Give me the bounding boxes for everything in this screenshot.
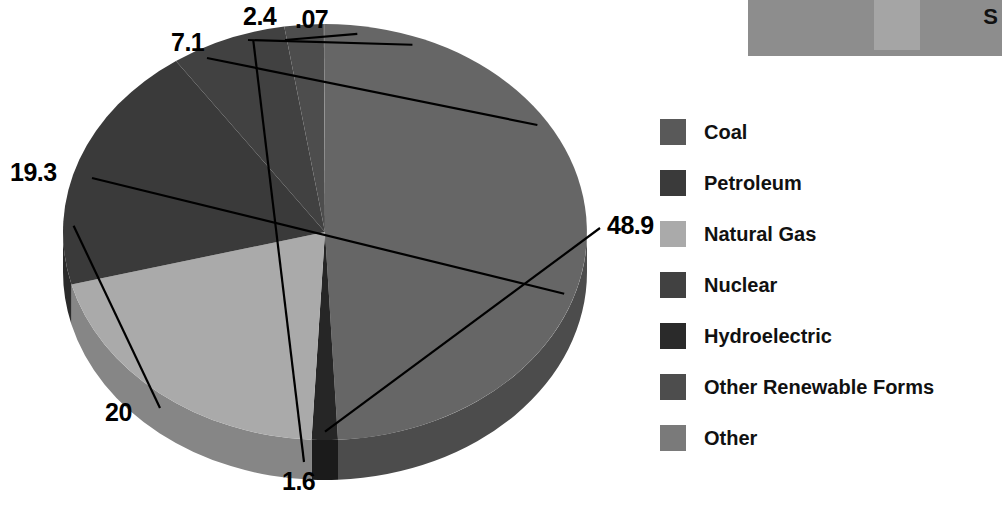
pie-value-label: 19.3: [10, 158, 57, 187]
legend-swatch-icon: [660, 323, 686, 349]
legend-item-label: Coal: [704, 122, 747, 142]
legend-item-label: Nuclear: [704, 275, 777, 295]
chart-legend: CoalPetroleumNatural GasNuclearHydroelec…: [660, 118, 1000, 451]
legend-item: Hydroelectric: [660, 322, 1000, 349]
legend-swatch-icon: [660, 374, 686, 400]
legend-item: Coal: [660, 118, 1000, 145]
chart-page: S 2.4.077.119.348.9201.6 CoalPetroleumNa…: [0, 0, 1002, 506]
pie-chart: [0, 0, 660, 506]
pie-value-label: 1.6: [282, 467, 315, 496]
legend-swatch-icon: [660, 425, 686, 451]
legend-swatch-icon: [660, 272, 686, 298]
pie-top-faces: [63, 24, 587, 440]
legend-item-label: Natural Gas: [704, 224, 816, 244]
legend-item: Nuclear: [660, 271, 1000, 298]
legend-item: Other: [660, 424, 1000, 451]
pie-slice-side: [312, 440, 339, 480]
pie-value-label: 2.4: [243, 2, 276, 31]
legend-swatch-icon: [660, 119, 686, 145]
legend-swatch-icon: [660, 221, 686, 247]
legend-item-label: Other Renewable Forms: [704, 377, 934, 397]
legend-item: Petroleum: [660, 169, 1000, 196]
legend-item: Natural Gas: [660, 220, 1000, 247]
pie-value-label: 7.1: [171, 28, 204, 57]
legend-swatch-icon: [660, 170, 686, 196]
legend-item-label: Petroleum: [704, 173, 802, 193]
legend-item-label: Hydroelectric: [704, 326, 832, 346]
legend-item: Other Renewable Forms: [660, 373, 1000, 400]
cropped-panel-inner-rectangle: [874, 0, 920, 50]
cropped-panel-letter: S: [983, 4, 998, 30]
cropped-image-panel: S: [748, 0, 1002, 56]
pie-value-label: 20: [105, 398, 132, 427]
pie-value-label: 48.9: [607, 211, 654, 240]
legend-item-label: Other: [704, 428, 757, 448]
pie-value-label: .07: [295, 5, 328, 34]
